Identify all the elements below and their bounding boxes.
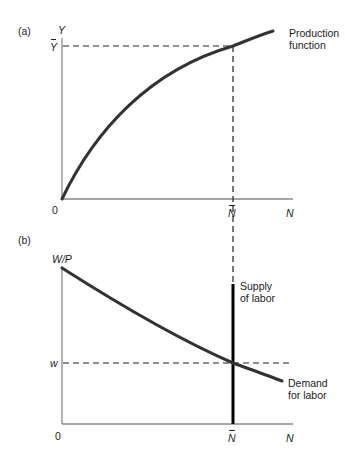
panel-a-nbar-label: N: [228, 207, 236, 219]
nbar-text: N: [228, 207, 236, 219]
panel-b-y-axis-label: W/P: [52, 253, 72, 265]
panel-a-ybar-label: Y: [50, 41, 57, 53]
production-function-label: Production function: [289, 27, 339, 51]
panel-b-tag: (b): [18, 234, 31, 246]
supply-label-line1: Supply: [240, 280, 275, 292]
demand-for-labor-label: Demand for labor: [288, 377, 328, 401]
ybar-text: Y: [50, 41, 57, 53]
production-function-curve: [62, 31, 273, 199]
panel-b-origin-label: 0: [55, 430, 61, 442]
panel-a-tag: (a): [18, 25, 31, 37]
production-function-label-line1: Production: [289, 27, 339, 39]
supply-of-labor-label: Supply of labor: [240, 280, 275, 304]
supply-label-line2: of labor: [240, 292, 275, 304]
panel-b-nbar-label: N: [228, 432, 236, 444]
panel-a-x-axis-label: N: [286, 207, 294, 219]
panel-b-w-label: w: [50, 357, 58, 369]
production-function-label-line2: function: [289, 39, 339, 51]
panel-b-x-axis-label: N: [286, 432, 294, 444]
panel-a-origin-label: 0: [52, 204, 58, 216]
demand-label-line1: Demand: [288, 377, 328, 389]
demand-label-line2: for labor: [288, 389, 328, 401]
nbar-text-b: N: [228, 432, 236, 444]
panel-a-y-axis-label: Y: [58, 24, 65, 36]
